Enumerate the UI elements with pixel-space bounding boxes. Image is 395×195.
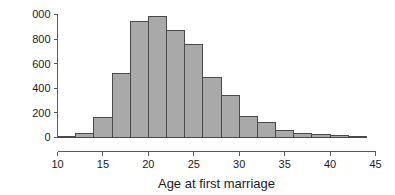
x-tick-label: 35	[279, 158, 291, 170]
x-tick-label: 30	[233, 158, 245, 170]
histogram-bar	[239, 117, 257, 138]
y-tick-label: 600	[32, 58, 50, 70]
x-tick-label: 25	[188, 158, 200, 170]
histogram-bar	[330, 136, 348, 138]
y-tick-label: 200	[32, 107, 50, 119]
histogram-bar	[148, 17, 166, 138]
histogram-bar	[130, 21, 148, 137]
histogram-plot-area: 02004006008000001015202530354045Age at f…	[0, 0, 395, 195]
x-tick-label: 45	[369, 158, 381, 170]
y-tick-label: 400	[32, 82, 50, 94]
x-tick-label: 10	[51, 158, 63, 170]
y-tick-label: 0	[44, 131, 50, 143]
histogram-bar	[185, 44, 203, 137]
y-tick-label: 800	[32, 33, 50, 45]
histogram-bar	[257, 122, 275, 137]
histogram-bar	[312, 135, 330, 138]
x-tick-label: 40	[324, 158, 336, 170]
histogram-bar	[167, 30, 185, 137]
histogram-bar	[76, 134, 94, 138]
histogram-bar	[348, 137, 366, 138]
y-tick-label: 000	[32, 8, 50, 20]
histogram-bar	[203, 77, 221, 137]
histogram-bar	[221, 95, 239, 137]
histogram-bar	[294, 133, 312, 137]
x-tick-label: 15	[97, 158, 109, 170]
histogram-bar	[94, 118, 112, 138]
x-axis-title: Age at first marriage	[158, 176, 275, 191]
histogram-bar	[276, 130, 294, 137]
histogram-bar	[112, 74, 130, 138]
histogram-chart: 02004006008000001015202530354045Age at f…	[0, 0, 395, 195]
x-tick-label: 20	[142, 158, 154, 170]
histogram-bar	[58, 137, 76, 138]
